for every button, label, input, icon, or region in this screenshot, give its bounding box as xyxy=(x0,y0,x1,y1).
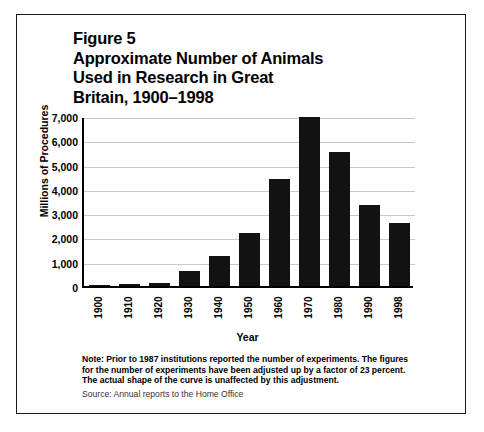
x-axis-tick-label: 1970 xyxy=(297,290,318,313)
y-axis-tick-label: 5,000 xyxy=(32,162,78,172)
figure-source: Source: Annual reports to the Home Offic… xyxy=(82,389,417,399)
x-axis-tick-label: 1930 xyxy=(177,290,198,313)
figure-note: Note: Prior to 1987 institutions reporte… xyxy=(82,354,417,386)
x-axis-tick-label: 1940 xyxy=(207,290,228,313)
bar xyxy=(89,285,110,287)
x-axis-tick-label: 1910 xyxy=(117,290,138,313)
bar xyxy=(299,117,320,286)
x-axis-ticks: 1900191019201930194019501960197019801990… xyxy=(82,290,413,326)
bar xyxy=(179,271,200,286)
figure-frame: Figure 5 Approximate Number of Animals U… xyxy=(16,14,466,414)
y-axis-tick-label: 2,000 xyxy=(32,234,78,244)
bar xyxy=(239,233,260,286)
bar xyxy=(329,152,350,286)
bar xyxy=(359,205,380,286)
x-axis-tick-label: 1900 xyxy=(87,290,108,313)
x-axis-tick-label: 1960 xyxy=(267,290,288,313)
bar-series xyxy=(84,116,415,286)
x-axis-title: Year xyxy=(82,331,413,343)
y-axis-tick-label: 0 xyxy=(32,283,78,293)
bar xyxy=(209,256,230,286)
y-axis-tick-label: 3,000 xyxy=(32,210,78,220)
bar xyxy=(269,179,290,286)
x-axis-tick-label: 1950 xyxy=(237,290,258,313)
plot-area xyxy=(82,118,413,288)
x-axis-tick-label: 1998 xyxy=(387,290,408,313)
y-axis-tick-label: 6,000 xyxy=(32,137,78,147)
bar xyxy=(149,283,170,286)
x-axis-tick-label: 1990 xyxy=(357,290,378,313)
y-axis-tick-label: 1,000 xyxy=(32,259,78,269)
y-axis-ticks: 01,0002,0003,0004,0005,0006,0007,000 xyxy=(30,118,78,288)
bar xyxy=(119,284,140,286)
bar xyxy=(389,223,410,286)
x-axis-tick-label: 1980 xyxy=(327,290,348,313)
x-axis-tick-label: 1920 xyxy=(147,290,168,313)
y-axis-tick-label: 4,000 xyxy=(32,186,78,196)
y-axis-tick-label: 7,000 xyxy=(32,113,78,123)
